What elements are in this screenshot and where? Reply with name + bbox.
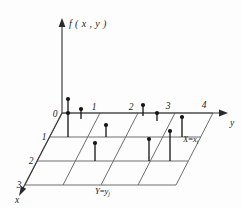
stem-dot <box>93 141 97 145</box>
tick-label-x1: 1 <box>42 132 47 142</box>
x-axis-line <box>22 113 62 190</box>
stem-dot <box>66 97 70 101</box>
stem-dot <box>155 111 159 115</box>
base-plane-grid <box>25 113 213 185</box>
plane-label-y: Y=yj <box>95 186 110 197</box>
tick-label-y0: 0 <box>53 109 58 119</box>
svg-text:Y=yj: Y=yj <box>95 186 110 197</box>
stem <box>66 111 70 137</box>
f-axis-arrowhead <box>59 18 66 27</box>
stem-plot-diagram: 0 1 2 3 4 1 2 3 f ( x , y ) y x X=xi Y=y… <box>0 0 242 208</box>
stem-dot <box>104 123 108 127</box>
axes <box>19 18 228 196</box>
f-axis-label: f ( x , y ) <box>69 18 107 30</box>
stem <box>147 137 151 161</box>
figure-canvas: 0 1 2 3 4 1 2 3 f ( x , y ) y x X=xi Y=y… <box>0 0 242 208</box>
plane-label-x: X=xi <box>182 134 199 145</box>
stem-dot <box>180 115 184 119</box>
tick-label-y3: 3 <box>165 101 171 111</box>
y-axis-arrowhead <box>219 110 228 117</box>
stem <box>93 141 97 161</box>
y-axis-label: y <box>229 118 235 128</box>
grid-lines-constant-y <box>25 113 213 185</box>
tick-label-x3: 3 <box>16 180 22 190</box>
svg-text:X=xi: X=xi <box>182 134 199 145</box>
x-axis-label: x <box>14 195 20 205</box>
stem-dot <box>79 107 83 111</box>
plane-y-subscript: j <box>107 191 110 197</box>
stem-dot <box>168 129 172 133</box>
tick-label-y1: 1 <box>92 102 97 112</box>
tick-label-y2: 2 <box>129 102 134 112</box>
tick-label-y4: 4 <box>202 100 207 110</box>
stem <box>66 97 70 113</box>
stem <box>155 111 159 121</box>
stem-dot <box>141 103 145 107</box>
stem-dot <box>147 137 151 141</box>
stem <box>104 123 108 137</box>
stem <box>141 103 145 116</box>
tick-label-x2: 2 <box>29 156 34 166</box>
stem-dot <box>66 111 70 115</box>
stem <box>168 129 172 161</box>
